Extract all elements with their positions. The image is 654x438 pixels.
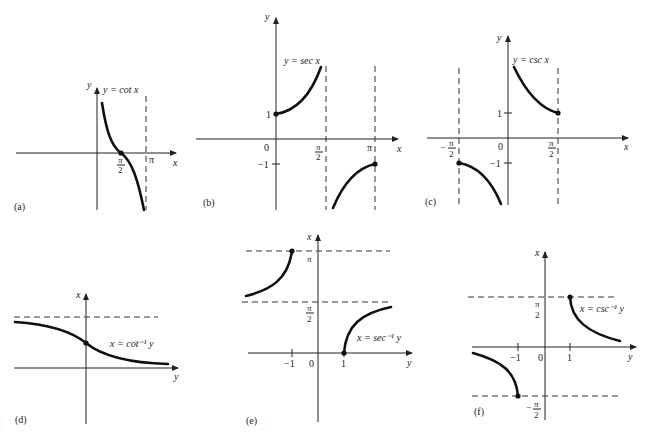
- point-minus-1-pi: [289, 248, 294, 253]
- tick-zero: 0: [498, 141, 503, 152]
- tick-pi: π: [307, 254, 312, 264]
- panel-label: (a): [14, 201, 25, 213]
- panel-label: (c): [425, 196, 436, 208]
- y-axis-label: x: [306, 231, 312, 242]
- point-neg-pi-over-2-minus-1: [456, 160, 461, 165]
- panel-label: (b): [203, 197, 215, 209]
- panel-c-csc: y x y = csc x 1 −1 0 − π 2 π 2 (c): [425, 32, 629, 208]
- x-axis-label: y: [627, 351, 633, 362]
- y-axis-label: x: [534, 247, 540, 258]
- tick-pi-over-2-num: π: [316, 142, 321, 152]
- tick-pi-over-2-num: π: [118, 155, 123, 165]
- tick-pi-over-2-num: π: [307, 303, 312, 313]
- tick-pi-over-2-den: 2: [549, 149, 554, 159]
- tick-zero: 0: [309, 358, 314, 369]
- cot-curve: [102, 103, 144, 210]
- tick-minus-one-label: −1: [284, 358, 295, 369]
- panel-b-sec: y x y = sec x 1 −1 0 π 2 π (b): [196, 11, 402, 210]
- tick-pi-over-2-num: π: [535, 299, 540, 309]
- point-pi-over-2: [83, 340, 88, 345]
- panel-label: (f): [474, 406, 484, 418]
- sec-curve-left: [276, 67, 321, 114]
- tick-pi: π: [149, 154, 154, 165]
- equation-label: y = csc x: [512, 54, 549, 65]
- point-pi-minus-1: [372, 161, 377, 166]
- tick-one-label: 1: [567, 352, 572, 363]
- tick-one-label: 1: [497, 108, 502, 119]
- tick-minus-one-label: −1: [258, 159, 269, 170]
- x-axis-label: y: [173, 371, 179, 382]
- y-axis-label: y: [86, 79, 92, 90]
- panel-label: (e): [246, 415, 257, 427]
- tick-neg-pi-over-2-den: 2: [534, 410, 539, 420]
- tick-neg-pi-over-2-den: 2: [449, 149, 454, 159]
- tick-pi-over-2-num: π: [549, 138, 554, 148]
- panel-d-arccot: x y x = cot⁻¹ y (d): [14, 289, 179, 426]
- panel-a-cot: y x y = cot x π 2 π (a): [14, 79, 178, 213]
- y-axis-label: y: [496, 32, 502, 43]
- tick-zero: 0: [264, 142, 269, 153]
- tick-pi-over-2-den: 2: [307, 314, 312, 324]
- point-pi-over-2-1: [555, 110, 560, 115]
- csc-curve-right: [514, 67, 558, 113]
- tick-pi-over-2-den: 2: [535, 310, 540, 320]
- point-1-pi-over-2: [567, 294, 572, 299]
- sec-curve-right: [333, 164, 375, 208]
- x-axis-label: x: [623, 141, 629, 152]
- tick-neg-sign: −: [526, 402, 531, 412]
- equation-label: y = sec x: [283, 55, 320, 66]
- arcsec-curve-right: [344, 307, 391, 353]
- tick-pi-over-2-den: 2: [118, 165, 123, 175]
- x-axis-label: x: [396, 143, 402, 154]
- y-axis-label: x: [75, 289, 81, 300]
- tick-one-label: 1: [341, 358, 346, 369]
- tick-zero: 0: [538, 352, 543, 363]
- x-axis-label: y: [406, 357, 412, 368]
- tick-minus-one-label: −1: [510, 352, 521, 363]
- panel-label: (d): [15, 414, 27, 426]
- tick-neg-pi-over-2-num: π: [534, 399, 539, 409]
- trig-graphs-figure: y x y = cot x π 2 π (a) y x y = sec x 1 …: [0, 0, 654, 438]
- point-0-1: [273, 111, 278, 116]
- equation-label: x = sec⁻¹ y: [356, 332, 401, 343]
- point-1-0: [341, 350, 346, 355]
- x-axis-label: x: [172, 157, 178, 168]
- y-axis-label: y: [264, 11, 270, 22]
- tick-neg-sign: −: [440, 142, 445, 152]
- equation-label: x = cot⁻¹ y: [109, 338, 154, 349]
- equation-label: x = csc⁻¹ y: [579, 303, 624, 314]
- tick-minus-one-label: −1: [490, 158, 501, 169]
- tick-neg-pi-over-2-num: π: [449, 138, 454, 148]
- tick-one: 1: [266, 109, 271, 120]
- panel-f-arccsc: x y x = csc⁻¹ y π 2 −1 0 1 − π 2 (f): [468, 247, 636, 420]
- panel-e-arcsec: x y x = sec⁻¹ y π π 2 −1 0 1 (e): [242, 231, 412, 427]
- arcsec-curve-left: [246, 251, 292, 296]
- point-minus-1-neg-pi-over-2: [515, 393, 520, 398]
- tick-pi-over-2-den: 2: [316, 152, 321, 162]
- csc-curve-left: [459, 163, 501, 204]
- tick-pi: π: [367, 142, 372, 153]
- equation-label: y = cot x: [102, 84, 139, 95]
